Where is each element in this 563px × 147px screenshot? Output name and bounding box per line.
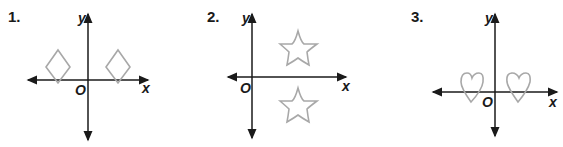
star-shape-upper	[280, 31, 317, 65]
star-shape-lower	[280, 88, 317, 122]
coordinate-plane	[0, 0, 190, 147]
diamond-shape-left	[46, 50, 70, 83]
origin-label: O	[482, 94, 493, 110]
origin-label: O	[75, 82, 86, 98]
x-axis-label: x	[342, 78, 350, 94]
coordinate-plane	[190, 0, 380, 147]
coordinate-plane	[375, 0, 563, 147]
heart-shape-right	[507, 73, 530, 102]
x-axis-label: x	[549, 94, 557, 110]
x-axis-label: x	[142, 80, 150, 96]
heart-shape-left	[461, 73, 483, 102]
diamond-shape-right	[106, 50, 130, 83]
figure-1: 1. y O x	[0, 0, 190, 147]
y-axis-label: y	[78, 10, 86, 26]
y-axis-label: y	[485, 10, 493, 26]
origin-label: O	[240, 80, 251, 96]
y-axis-label: y	[242, 10, 250, 26]
figure-3: 3. y O x	[375, 0, 563, 147]
figure-2: 2. y O x	[190, 0, 380, 147]
